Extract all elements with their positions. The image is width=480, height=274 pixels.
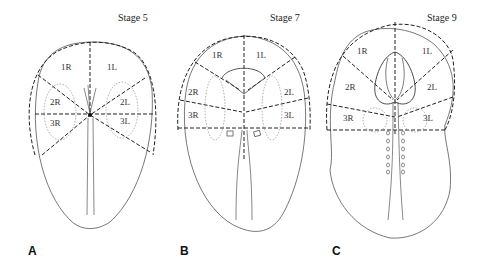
region-label-3l: 3L bbox=[423, 113, 433, 123]
stage-title: Stage 9 bbox=[427, 12, 457, 23]
region-label-1l: 1L bbox=[422, 46, 432, 56]
panel-b: Stage 7 1R 1L 2R 2L 3R 3L B bbox=[160, 0, 315, 274]
region-label-1r: 1R bbox=[61, 62, 72, 72]
panel-letter: B bbox=[180, 244, 189, 258]
region-label-1r: 1R bbox=[357, 46, 368, 56]
panel-letter: C bbox=[332, 244, 341, 258]
panel-a: Stage 5 1R 1L 2R 2L 3R 3L A bbox=[0, 0, 160, 274]
region-label-3l: 3L bbox=[284, 110, 294, 120]
stage-title: Stage 7 bbox=[270, 12, 300, 23]
region-label-3r: 3R bbox=[50, 118, 61, 128]
region-label-2l: 2L bbox=[120, 97, 130, 107]
region-label-2r: 2R bbox=[345, 82, 356, 92]
region-label-1r: 1R bbox=[212, 50, 223, 60]
stage-title: Stage 5 bbox=[118, 12, 148, 23]
region-label-3l: 3L bbox=[120, 116, 130, 126]
panel-letter: A bbox=[28, 244, 37, 258]
embryo-stage9-drawing bbox=[315, 0, 480, 274]
region-label-2r: 2R bbox=[50, 97, 61, 107]
embryo-stage5-drawing bbox=[0, 0, 160, 274]
region-label-2l: 2L bbox=[427, 82, 437, 92]
embryo-stage7-drawing bbox=[160, 0, 315, 274]
region-label-2l: 2L bbox=[284, 87, 294, 97]
panel-c: Stage 9 1R 1L 2R 2L 3R 3L C bbox=[315, 0, 480, 274]
region-label-3r: 3R bbox=[343, 113, 354, 123]
region-label-1l: 1L bbox=[256, 50, 266, 60]
region-label-2r: 2R bbox=[188, 87, 199, 97]
region-label-1l: 1L bbox=[107, 62, 117, 72]
region-label-3r: 3R bbox=[188, 110, 199, 120]
